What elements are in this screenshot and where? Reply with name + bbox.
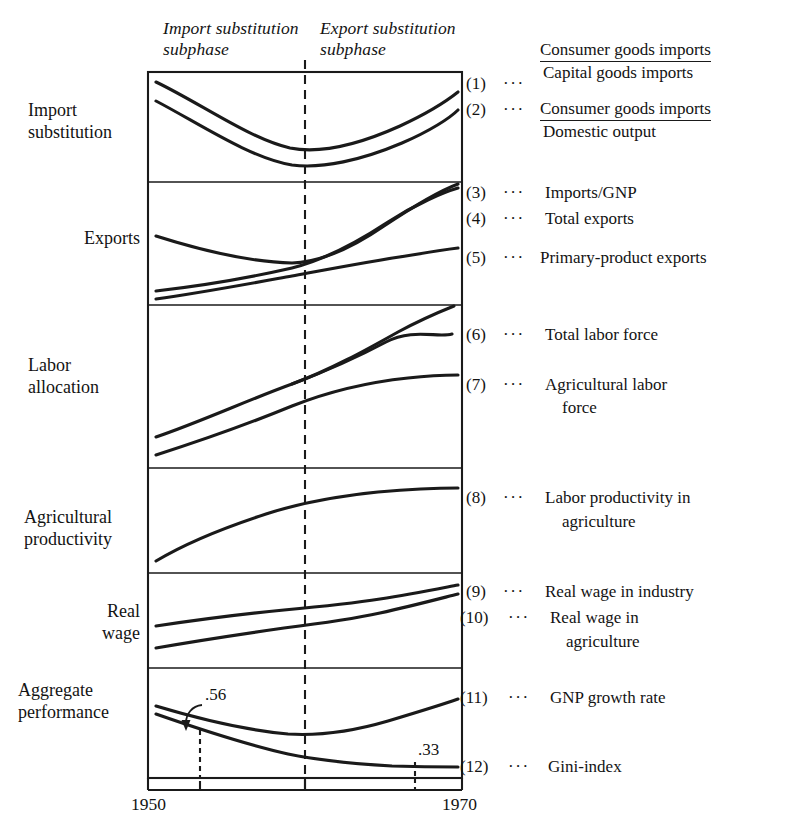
legend-label-8-line2: agriculture (562, 512, 636, 532)
legend-key-8: (8) (466, 488, 486, 508)
legend-dots-11: ··· (508, 688, 530, 708)
legend-label-4: Total exports (545, 209, 634, 229)
legend-label-7: Agricultural labor (545, 375, 667, 395)
legend-label-8: Labor productivity in (545, 488, 690, 508)
legend-label-3: Imports/GNP (545, 183, 637, 203)
legend-label-2-numerator: Consumer goods imports (540, 99, 711, 121)
legend-key-6: (6) (466, 325, 486, 345)
legend-key-10: (10) (460, 608, 488, 628)
legend-label-10-line2: agriculture (566, 632, 640, 652)
x-axis-label-end: 1970 (442, 794, 477, 815)
curve-8-labor-productivity-agriculture (156, 488, 458, 561)
curve-12-gini-index (156, 714, 458, 767)
legend-dots-5: ··· (503, 248, 525, 268)
legend-dots-7: ··· (503, 375, 525, 395)
legend-dots-9: ··· (503, 582, 525, 602)
legend-key-1: (1) (466, 74, 486, 94)
legend-label-1-numerator: Consumer goods imports (540, 40, 711, 62)
legend-key-4: (4) (466, 209, 486, 229)
legend-dots-4: ··· (503, 209, 525, 229)
legend-label-12: Gini-index (548, 757, 622, 777)
legend-dots-10: ··· (508, 608, 530, 628)
legend-label-10: Real wage in (550, 608, 639, 628)
legend-key-3: (3) (466, 183, 486, 203)
legend-key-5: (5) (466, 248, 486, 268)
legend-dots-2: ··· (503, 100, 525, 120)
annotation-gini-end: .33 (418, 740, 439, 760)
legend-dots-6: ··· (503, 325, 525, 345)
legend-label-11: GNP growth rate (550, 688, 666, 708)
legend-label-5: Primary-product exports (540, 248, 707, 268)
curve-5-primary-product-exports (156, 248, 458, 299)
curve-6-total-labor-force-tail (292, 306, 454, 384)
legend-key-12: (12) (460, 757, 488, 777)
curve-4-total-exports (156, 188, 458, 291)
legend-dots-1: ··· (503, 74, 525, 94)
legend-label-9: Real wage in industry (545, 582, 694, 602)
legend-label-1-denominator: Capital goods imports (540, 62, 711, 83)
x-axis-label-start: 1950 (131, 794, 166, 815)
legend-key-7: (7) (466, 375, 486, 395)
legend-label-2: Consumer goods imports Domestic output (540, 99, 711, 142)
legend-label-1: Consumer goods imports Capital goods imp… (540, 40, 711, 83)
legend-key-2: (2) (466, 100, 486, 120)
curve-7-agricultural-labor-force (156, 375, 458, 455)
economic-phases-figure: Import substitution subphase Export subs… (0, 0, 811, 836)
legend-key-11: (11) (460, 688, 488, 708)
legend-key-9: (9) (466, 582, 486, 602)
curve-3-imports-over-gnp (156, 184, 458, 263)
annotation-gini-start: .56 (205, 685, 226, 705)
legend-label-7-line2: force (562, 398, 597, 418)
legend-dots-8: ··· (503, 488, 525, 508)
legend-label-6: Total labor force (545, 325, 658, 345)
legend-dots-12: ··· (508, 757, 530, 777)
curve-2-consumer-over-domestic (156, 101, 458, 166)
legend-dots-3: ··· (503, 183, 525, 203)
legend-label-2-denominator: Domestic output (540, 121, 711, 142)
